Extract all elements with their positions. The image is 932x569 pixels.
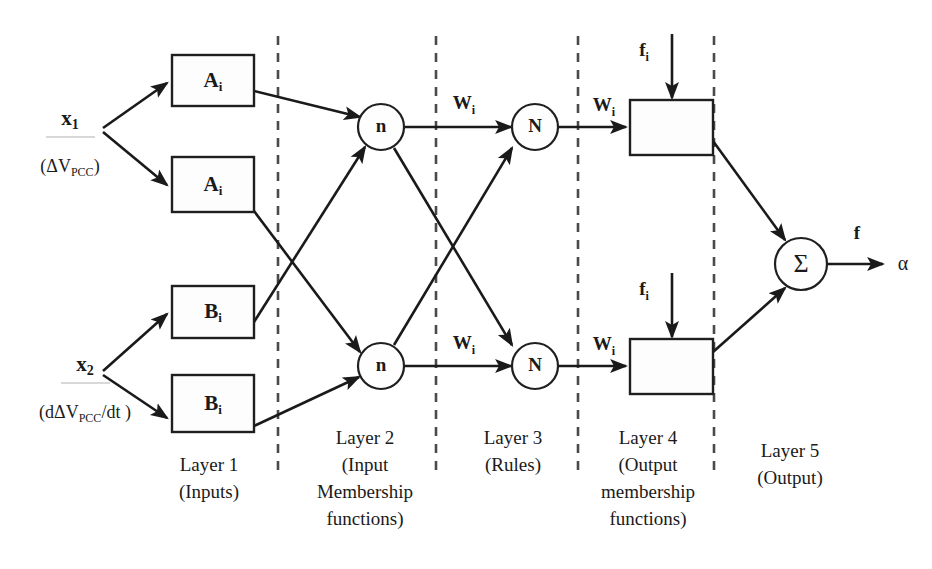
rule-node-n1-label: n [376,115,387,136]
layer-caption-2-line-0: (Input [342,454,389,476]
layer-caption-4-line-2: functions) [609,508,686,530]
membership-box-A2[interactable]: Ai [172,157,254,212]
membership-box-B2[interactable]: Bi [172,375,254,432]
layer-caption-1-title: Layer 1 [180,454,239,475]
layer-caption-2: Layer 2 (Input Membership functions) [317,427,413,530]
norm-node-N1-label: N [528,115,542,136]
rule-node-n2-label: n [376,354,387,375]
rule-node-n1[interactable]: n [358,104,404,150]
edge-B2-to-n2 [254,377,359,426]
layer-caption-2-line-1: Membership [317,481,413,502]
edge-x1-to-A2 [103,132,167,185]
input-detail-x2: (dΔVPCC/dt ) [39,402,131,425]
edge-A1-to-n1 [254,91,360,117]
layer-caption-4-title: Layer 4 [619,427,678,448]
layer-caption-3: Layer 3 (Rules) [484,427,543,476]
weight-label-lower-norm: Wi [593,333,616,357]
layer-caption-2-line-2: functions) [326,508,403,530]
layer-caption-4-line-0: (Output [618,454,678,476]
output-box-1[interactable] [630,100,713,155]
output-label-f: f [854,222,861,243]
anfis-diagram-canvas: x1 (ΔVPCC) x2 (dΔVPCC/dt ) Ai [0,0,932,569]
layer-caption-3-title: Layer 3 [484,427,543,448]
layer-caption-4: Layer 4 (Output membership functions) [601,427,695,530]
layer-caption-2-title: Layer 2 [336,427,395,448]
output-box-1-rect[interactable] [630,100,713,155]
rule-to-norm-edges [394,127,512,366]
membership-to-rule-edges [254,91,365,426]
edge-A2-to-n2 [254,211,360,352]
final-output-labels: f α [854,222,909,273]
layer-caption-5-title: Layer 5 [761,440,820,461]
input-node-x2: x2 (dΔVPCC/dt ) [39,352,131,425]
edge-x1-to-A1 [103,83,167,128]
layer-caption-5-line-0: (Output) [757,467,822,489]
layer-caption-5: Layer 5 (Output) [757,440,822,489]
norm-to-output-edges [558,34,672,366]
weight-label-upper-norm: Wi [593,94,616,118]
output-box-2-rect[interactable] [630,339,713,394]
edge-outbox1-to-sum [713,141,785,240]
summation-node-label: Σ [793,249,808,278]
norm-node-N1[interactable]: N [512,104,558,150]
edge-outbox2-to-sum [713,288,785,352]
input-detail-x1: (ΔVPCC) [40,156,99,179]
weight-label-upper-rule: Wi [453,92,476,116]
membership-box-A1[interactable]: Ai [172,55,254,106]
layer-caption-4-line-1: membership [601,481,695,502]
fi-label-upper: fi [639,39,649,63]
weight-label-lower-rule: Wi [453,332,476,356]
input-to-membership-edges [103,83,167,418]
layer-caption-1: Layer 1 (Inputs) [179,454,239,503]
fi-label-lower: fi [639,278,649,302]
input-node-x1: x1 (ΔVPCC) [40,106,99,179]
edge-fi-labels: fi fi [639,39,649,302]
anfis-diagram-svg: x1 (ΔVPCC) x2 (dΔVPCC/dt ) Ai [0,0,932,569]
membership-box-B1[interactable]: Bi [172,286,254,338]
summation-node[interactable]: Σ [775,238,827,290]
layer-caption-3-line-0: (Rules) [485,454,541,476]
input-label-x1: x1 [61,106,79,132]
edge-x2-to-B1 [103,314,167,371]
norm-node-N2[interactable]: N [512,343,558,389]
rule-node-n2[interactable]: n [358,343,404,389]
norm-node-N2-label: N [528,354,542,375]
output-box-2[interactable] [630,339,713,394]
layer-caption-1-line-0: (Inputs) [179,481,239,503]
output-label-alpha: α [898,252,909,274]
input-label-x2: x2 [76,352,94,378]
